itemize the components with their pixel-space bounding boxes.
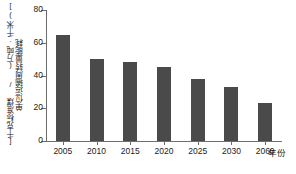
bar: [191, 79, 205, 141]
bar: [258, 103, 272, 141]
y-axis-line: [46, 10, 47, 141]
y-tick-label: 20: [34, 102, 43, 112]
bar: [123, 62, 137, 141]
x-tick-mark: [63, 141, 64, 145]
bar: [90, 59, 104, 141]
y-tick-label: 60: [34, 37, 43, 47]
x-tick-label: 2025: [188, 146, 207, 156]
x-tick-mark: [265, 141, 266, 145]
y-tick-label: 0: [38, 135, 43, 145]
x-tick-mark: [198, 141, 199, 145]
bar-chart: [千克标准煤 / (万吨·千米)] 单位运输周转量能耗 020406080 20…: [0, 0, 296, 174]
bar: [56, 35, 70, 141]
x-axis-title: 年份: [268, 146, 286, 158]
bar: [224, 87, 238, 141]
plot-area: 020406080: [46, 10, 282, 141]
y-axis-title-text: 单位运输周转量能耗: [15, 39, 24, 111]
bar: [157, 67, 171, 141]
x-tick-label: 2030: [222, 146, 241, 156]
x-tick-mark: [130, 141, 131, 145]
y-tick-label: 40: [34, 70, 43, 80]
x-tick-label: 2010: [87, 146, 106, 156]
x-tick-mark: [164, 141, 165, 145]
x-tick-label: 2015: [121, 146, 140, 156]
x-tick-label: 2020: [155, 146, 174, 156]
y-axis-title: [千克标准煤 / (万吨·千米)] 单位运输周转量能耗: [0, 0, 30, 150]
x-tick-mark: [231, 141, 232, 145]
y-tick-label: 80: [34, 4, 43, 14]
x-tick-label: 2005: [53, 146, 72, 156]
x-tick-mark: [97, 141, 98, 145]
y-axis-unit-text: [千克标准煤 / (万吨·千米)]: [6, 3, 15, 147]
